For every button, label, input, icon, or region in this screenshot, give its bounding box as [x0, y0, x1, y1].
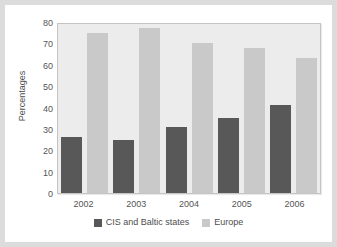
x-axis-tick-label: 2004	[163, 197, 216, 211]
x-axis: 20022003200420052006	[57, 197, 321, 211]
y-axis-tick-label: 20	[43, 147, 53, 156]
bar	[244, 48, 265, 193]
bar	[192, 43, 213, 193]
legend-swatch-icon	[202, 219, 210, 227]
chart-figure: Percentages 01020304050607080 2002200320…	[0, 0, 337, 247]
legend-label: Europe	[214, 218, 243, 227]
y-axis-tick-label: 50	[43, 83, 53, 92]
bar-group	[163, 24, 215, 193]
legend-item[interactable]: CIS and Baltic states	[94, 218, 190, 227]
bar	[113, 140, 134, 193]
legend-item[interactable]: Europe	[202, 218, 243, 227]
legend-label: CIS and Baltic states	[106, 218, 190, 227]
y-axis-tick-label: 40	[43, 104, 53, 113]
x-axis-tick-label: 2002	[57, 197, 110, 211]
x-axis-tick-label: 2003	[110, 197, 163, 211]
bar	[166, 127, 187, 193]
bar	[218, 118, 239, 193]
y-axis: 01020304050607080	[31, 23, 53, 194]
bar	[87, 33, 108, 193]
bar	[296, 58, 317, 193]
y-axis-tick-label: 70	[43, 40, 53, 49]
bars-layer	[58, 24, 320, 193]
bar-group	[58, 24, 110, 193]
y-axis-label: Percentages	[17, 36, 27, 156]
bar	[61, 137, 82, 193]
x-axis-tick-label: 2005	[215, 197, 268, 211]
y-axis-tick-label: 10	[43, 168, 53, 177]
legend-swatch-icon	[94, 219, 102, 227]
x-axis-tick-label: 2006	[268, 197, 321, 211]
bar	[270, 105, 291, 193]
bar-group	[268, 24, 320, 193]
bar-group	[110, 24, 162, 193]
bar-group	[215, 24, 267, 193]
bar	[139, 28, 160, 193]
plot-area	[57, 23, 321, 194]
chart-legend: CIS and Baltic statesEurope	[5, 218, 332, 227]
y-axis-tick-label: 30	[43, 125, 53, 134]
y-axis-tick-label: 0	[48, 190, 53, 199]
y-axis-tick-label: 60	[43, 61, 53, 70]
y-axis-tick-label: 80	[43, 19, 53, 28]
